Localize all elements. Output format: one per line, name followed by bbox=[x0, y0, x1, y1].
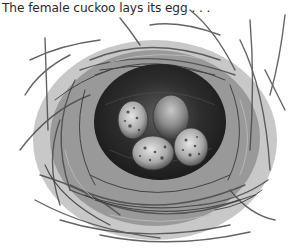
egg-bottom-left bbox=[132, 136, 174, 170]
nest-illustration bbox=[0, 0, 294, 251]
egg-left bbox=[118, 101, 148, 139]
egg-bottom-right bbox=[174, 128, 208, 166]
